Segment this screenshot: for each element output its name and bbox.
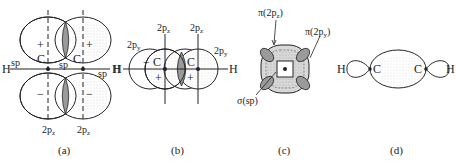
- atom-h-right: H: [446, 62, 455, 76]
- atom-c-right: C: [187, 55, 195, 69]
- panel-a: H H C C sp sp sp + + − − 2pz 2pz (a): [2, 10, 121, 157]
- atom-h-left: H: [2, 62, 11, 76]
- carbon-nucleus-right: [424, 67, 428, 71]
- label-sp-right: sp: [98, 68, 107, 79]
- carbon-nucleus-right: [196, 67, 200, 71]
- label-pi-2pz: π(2pz): [258, 7, 283, 20]
- atom-h-left: H: [337, 62, 346, 76]
- caption-b: (b): [171, 144, 184, 157]
- label-sp-center: sp: [59, 59, 68, 70]
- panel-d: H C C H (d): [337, 50, 455, 157]
- carbon-nucleus-left: [46, 67, 50, 71]
- caption-c: (c): [278, 144, 291, 157]
- atom-c-left: C: [37, 52, 45, 66]
- atom-c-right: C: [414, 62, 422, 76]
- label-2pz-left: 2pz: [42, 124, 55, 137]
- atom-c-left: C: [373, 62, 381, 76]
- leader-pi-y: [310, 36, 320, 58]
- bond-center: [283, 67, 287, 71]
- label-2pz-right: 2pz: [190, 22, 203, 35]
- sign-plus-left: +: [37, 38, 44, 52]
- panel-b: H H C C − + + 2pz 2pz 2py 2py (b): [113, 22, 238, 157]
- caption-a: (a): [58, 144, 71, 157]
- sign-minus: −: [143, 55, 150, 69]
- sign-plus-right: +: [187, 71, 194, 85]
- label-2pz-right: 2pz: [77, 124, 90, 137]
- sign-plus-right: +: [86, 38, 93, 52]
- label-sigma-sp: σ(sp): [237, 95, 258, 107]
- acetylene-orbital-diagram: H H C C sp sp sp + + − − 2pz 2pz (a) H H…: [0, 0, 456, 168]
- label-2pz-left: 2pz: [157, 22, 170, 35]
- label-pi-2py: π(2py): [305, 26, 330, 39]
- carbon-nucleus-left: [368, 67, 372, 71]
- atom-h-left: H: [113, 62, 122, 76]
- label-sp-left: sp: [11, 57, 20, 68]
- atom-h-right: H: [229, 62, 238, 76]
- label-2py-right: 2py: [214, 45, 228, 58]
- carbon-nucleus-left: [163, 67, 167, 71]
- atom-c-left: C: [153, 55, 161, 69]
- ch-orbital-left: [347, 61, 370, 78]
- carbon-nucleus-right: [81, 67, 85, 71]
- sign-minus-right: −: [86, 87, 93, 101]
- sign-plus-left: +: [155, 71, 162, 85]
- sign-minus-left: −: [37, 87, 44, 101]
- atom-c-right: C: [73, 52, 81, 66]
- label-2py-left: 2py: [127, 39, 141, 52]
- panel-c: π(2pz) π(2py) σ(sp) (c): [237, 7, 330, 157]
- caption-d: (d): [390, 144, 403, 157]
